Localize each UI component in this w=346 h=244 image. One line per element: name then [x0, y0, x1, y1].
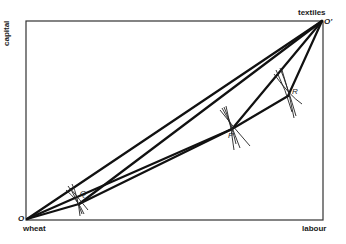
point-q-label: Q	[80, 190, 86, 198]
textiles-label: textiles	[298, 9, 326, 17]
line-p-o-prime	[232, 21, 322, 129]
line-q-o-prime	[79, 21, 322, 204]
edgeworth-box-diagram	[0, 0, 346, 244]
capital-axis-label: capital	[3, 21, 11, 46]
origin-o-label: O	[18, 215, 24, 223]
point-p-label: P	[228, 132, 233, 140]
line-o-p	[27, 129, 232, 219]
wheat-label: wheat	[23, 225, 46, 233]
labour-axis-label: labour	[302, 225, 326, 233]
point-r-label: R	[292, 88, 298, 96]
origin-o-prime-label: O'	[324, 18, 332, 26]
line-p-r	[232, 96, 288, 129]
